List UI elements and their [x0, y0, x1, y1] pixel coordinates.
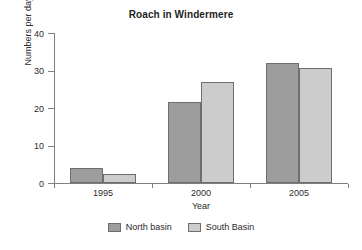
x-axis-tick [54, 184, 55, 188]
y-axis-tick-label: 20 [34, 104, 44, 114]
x-axis-tick-label: 2000 [191, 188, 211, 198]
y-axis-tick-label: 40 [34, 29, 44, 39]
plot-area [54, 33, 348, 183]
x-axis-tick [152, 184, 153, 188]
legend-item-south-basin[interactable]: South Basin [188, 222, 255, 232]
bar-2000-south [201, 82, 234, 183]
legend-swatch-icon [188, 223, 201, 232]
chart-legend: North basinSouth Basin [0, 222, 362, 232]
bar-chart: Roach in Windermere 010203040 1995200020… [0, 0, 362, 250]
legend-label: North basin [126, 222, 172, 232]
y-axis-tick-label: 30 [34, 66, 44, 76]
legend-swatch-icon [108, 223, 121, 232]
y-axis-tick-label: 10 [34, 141, 44, 151]
x-axis-line [54, 183, 348, 184]
x-axis-title: Year [54, 201, 348, 211]
y-axis-tick-label: 0 [39, 179, 44, 189]
y-axis-tick: 20 [48, 108, 54, 109]
x-axis-tick-label: 1995 [93, 188, 113, 198]
x-axis-tick [348, 184, 349, 188]
legend-item-north-basin[interactable]: North basin [108, 222, 172, 232]
legend-label: South Basin [206, 222, 255, 232]
x-axis-tick-label: 2005 [289, 188, 309, 198]
chart-title: Roach in Windermere [0, 9, 362, 20]
y-axis-title: Numbers per day [23, 0, 33, 106]
bar-2000-north [168, 102, 201, 183]
y-axis-tick: 10 [48, 146, 54, 147]
bar-1995-north [70, 168, 103, 183]
bar-1995-south [103, 174, 136, 183]
bar-2005-north [266, 63, 299, 183]
bar-2005-south [299, 68, 332, 183]
y-axis-tick: 30 [48, 71, 54, 72]
x-axis-tick [250, 184, 251, 188]
y-axis-tick: 40 [48, 33, 54, 34]
